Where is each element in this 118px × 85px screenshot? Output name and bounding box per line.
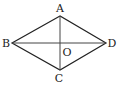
label-c: C	[55, 72, 63, 85]
label-o: O	[62, 46, 71, 59]
rhombus-diagram: A B C D O	[0, 0, 118, 85]
label-a: A	[55, 2, 65, 15]
label-b: B	[2, 37, 10, 50]
label-d: D	[108, 37, 117, 50]
